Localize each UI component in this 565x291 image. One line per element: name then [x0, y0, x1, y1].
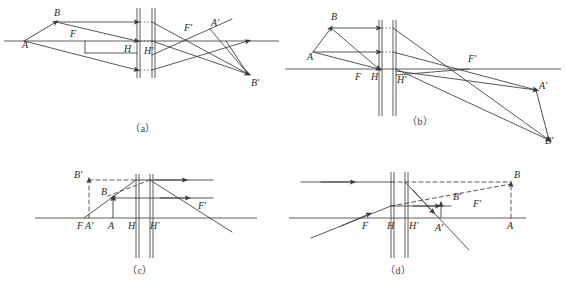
label-d-H: H	[386, 220, 395, 231]
panel-a: A B F H H′ F′ A′ B′	[0, 0, 283, 120]
label-c-A: A	[107, 220, 115, 231]
ray-chief-dashed-d	[391, 184, 511, 206]
label-c-H: H	[127, 220, 136, 231]
label-d-Hp: H′	[408, 220, 419, 231]
label-a-Ap: A′	[210, 17, 220, 28]
label-b-Ap: A′	[538, 80, 548, 91]
label-a-H: H	[123, 43, 132, 54]
ray-virtual-extension-c	[108, 180, 150, 196]
label-c-B: B	[101, 186, 107, 197]
label-d-B: B	[514, 169, 520, 180]
ray-a-out-b	[393, 52, 536, 90]
label-a-Fp: F′	[183, 22, 193, 33]
object-arrow-ab-a	[24, 22, 56, 41]
label-c-Hp: H′	[149, 220, 160, 231]
caption-panel-d: （d）	[378, 262, 418, 277]
panel-d: B B′ F′ F H H′ A′ A	[283, 150, 565, 260]
label-d-A: A	[506, 220, 514, 231]
label-c-Fp: F′	[197, 200, 207, 211]
ray-b-through-f-a	[56, 22, 137, 41]
label-a-A: A	[21, 39, 29, 50]
label-b-B: B	[331, 11, 337, 22]
label-c-Bp: B′	[74, 169, 83, 180]
label-b-H: H	[370, 71, 379, 82]
ray-refracted-arrow-d	[413, 190, 433, 212]
ray-a-lower-a	[24, 41, 137, 70]
figure-sheet: A B F H H′ F′ A′ B′ （a）	[0, 0, 565, 291]
label-c-Ap: A′	[84, 220, 94, 231]
label-a-F: F	[69, 28, 77, 39]
ray-a-chief-out-b	[396, 71, 536, 90]
panel-c-canvas: B′ B F A′ A H H′ F′	[0, 150, 283, 260]
label-b-F: F	[354, 71, 362, 82]
label-b-Hp: H′	[396, 74, 407, 85]
caption-panel-c: （c）	[120, 262, 160, 277]
ray-through-fprime-a	[152, 22, 248, 74]
label-b-Fp: F′	[467, 53, 477, 64]
label-a-Hp: H′	[143, 45, 154, 56]
panel-c: B′ B F A′ A H H′ F′	[0, 150, 283, 260]
label-b-Bp: B′	[545, 135, 554, 146]
label-c-F: F	[76, 220, 84, 231]
caption-panel-a: （a）	[123, 120, 163, 135]
panel-a-canvas: A B F H H′ F′ A′ B′	[0, 0, 283, 120]
ray-through-fprime-ext-b	[396, 69, 469, 75]
ray-b-out-b	[396, 69, 549, 140]
panel-d-canvas: B B′ F′ F H H′ A′ A	[283, 150, 565, 260]
label-a-B: B	[54, 7, 60, 18]
ray-through-f-c	[84, 180, 136, 218]
image-arrow-ab-prime-a	[226, 41, 248, 74]
label-d-Ap: A′	[434, 222, 444, 233]
label-b-A: A	[306, 51, 314, 62]
label-d-Fp: F′	[472, 198, 482, 209]
ray-diverging-out-c	[150, 180, 232, 232]
label-a-Bp: B′	[251, 77, 260, 88]
ray-a-out-a	[152, 41, 248, 70]
label-d-Bp: B′	[453, 191, 462, 202]
label-d-F: F	[361, 220, 369, 231]
object-arrow-ab-b	[313, 28, 331, 52]
caption-panel-b: （b）	[400, 113, 440, 128]
